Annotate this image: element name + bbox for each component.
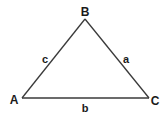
- side-label-a: a: [123, 53, 130, 65]
- triangle-diagram: B A C c a b: [0, 0, 167, 118]
- vertex-label-c: C: [151, 94, 160, 108]
- side-a-line: [85, 19, 149, 98]
- side-label-b: b: [82, 102, 89, 114]
- vertex-label-a: A: [10, 93, 19, 107]
- vertex-label-b: B: [81, 5, 90, 19]
- side-label-c: c: [42, 53, 48, 65]
- side-c-line: [22, 19, 85, 98]
